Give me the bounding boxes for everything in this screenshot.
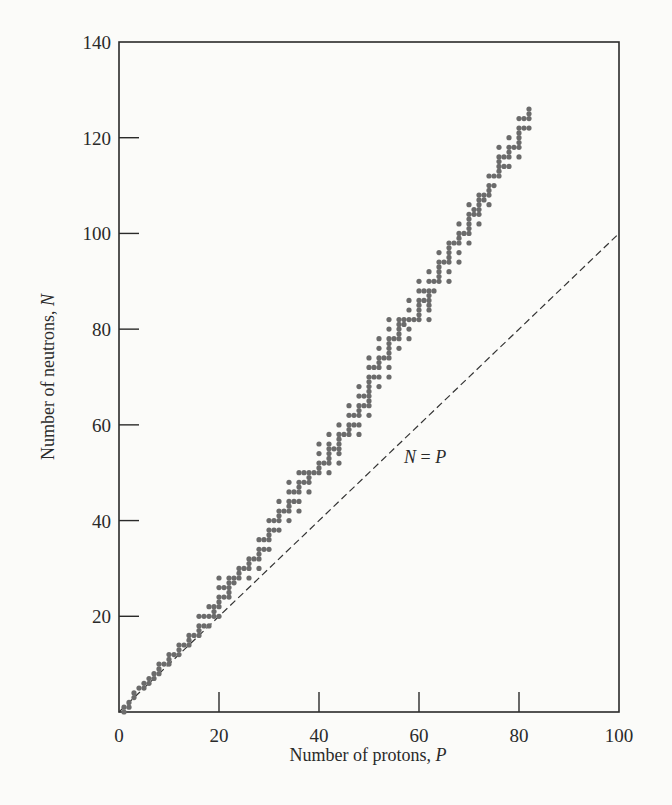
data-point	[511, 145, 516, 150]
data-point	[261, 537, 266, 542]
data-point	[196, 633, 201, 638]
y-tick-label: 140	[83, 32, 112, 53]
data-point	[151, 676, 156, 681]
page-background	[0, 0, 672, 805]
data-point	[331, 446, 336, 451]
data-point	[296, 489, 301, 494]
data-point	[526, 116, 531, 121]
data-point	[491, 173, 496, 178]
data-point	[356, 422, 361, 427]
data-point	[336, 446, 341, 451]
data-point	[516, 145, 521, 150]
data-point	[186, 638, 191, 643]
data-point	[366, 413, 371, 418]
data-point	[201, 614, 206, 619]
data-point	[346, 413, 351, 418]
data-point	[256, 556, 261, 561]
data-point	[181, 642, 186, 647]
data-point	[421, 298, 426, 303]
data-point	[441, 260, 446, 265]
data-point	[316, 441, 321, 446]
data-point	[206, 604, 211, 609]
data-point	[466, 231, 471, 236]
data-point	[526, 126, 531, 131]
data-point	[466, 221, 471, 226]
data-point	[486, 193, 491, 198]
data-point	[396, 317, 401, 322]
y-tick-label: 100	[83, 223, 112, 244]
data-point	[416, 288, 421, 293]
x-tick-label: 0	[114, 725, 124, 746]
data-point	[396, 322, 401, 327]
data-point	[176, 652, 181, 657]
data-point	[121, 709, 126, 714]
data-point	[496, 164, 501, 169]
data-point	[381, 355, 386, 360]
data-point	[446, 260, 451, 265]
data-point	[486, 202, 491, 207]
data-point	[456, 260, 461, 265]
x-tick-label: 60	[410, 725, 429, 746]
data-point	[216, 599, 221, 604]
data-point	[201, 623, 206, 628]
data-point	[186, 642, 191, 647]
data-point	[426, 317, 431, 322]
data-point	[376, 336, 381, 341]
data-point	[386, 355, 391, 360]
data-point	[426, 279, 431, 284]
data-point	[436, 269, 441, 274]
x-tick-label: 80	[510, 725, 529, 746]
data-point	[216, 595, 221, 600]
data-point	[466, 202, 471, 207]
data-point	[356, 384, 361, 389]
x-tick-label: 40	[310, 725, 329, 746]
data-point	[376, 374, 381, 379]
data-point	[426, 288, 431, 293]
data-point	[476, 197, 481, 202]
data-point	[476, 193, 481, 198]
data-point	[276, 508, 281, 513]
data-point	[296, 508, 301, 513]
data-point	[496, 145, 501, 150]
data-point	[501, 154, 506, 159]
data-point	[481, 197, 486, 202]
data-point	[191, 633, 196, 638]
data-point	[436, 264, 441, 269]
data-point	[431, 288, 436, 293]
data-point	[221, 595, 226, 600]
data-point	[186, 633, 191, 638]
data-point	[336, 432, 341, 437]
data-point	[246, 556, 251, 561]
data-point	[411, 317, 416, 322]
data-point	[291, 489, 296, 494]
data-point	[236, 575, 241, 580]
data-point	[231, 575, 236, 580]
data-point	[326, 432, 331, 437]
data-point	[466, 217, 471, 222]
data-point	[306, 489, 311, 494]
data-point	[306, 475, 311, 480]
data-point	[401, 322, 406, 327]
y-tick-label: 80	[92, 319, 111, 340]
data-point	[156, 671, 161, 676]
x-axis-label: Number of protons, P	[290, 745, 447, 765]
data-point	[301, 470, 306, 475]
data-point	[251, 556, 256, 561]
data-point	[396, 331, 401, 336]
data-point	[376, 360, 381, 365]
data-point	[141, 686, 146, 691]
data-point	[136, 686, 141, 691]
data-point	[341, 432, 346, 437]
data-point	[356, 403, 361, 408]
data-point	[321, 461, 326, 466]
data-point	[471, 212, 476, 217]
data-point	[476, 207, 481, 212]
data-point	[351, 422, 356, 427]
data-point	[446, 240, 451, 245]
data-point	[356, 408, 361, 413]
data-point	[246, 575, 251, 580]
data-point	[121, 705, 126, 710]
data-point	[446, 279, 451, 284]
data-point	[296, 470, 301, 475]
data-point	[426, 307, 431, 312]
